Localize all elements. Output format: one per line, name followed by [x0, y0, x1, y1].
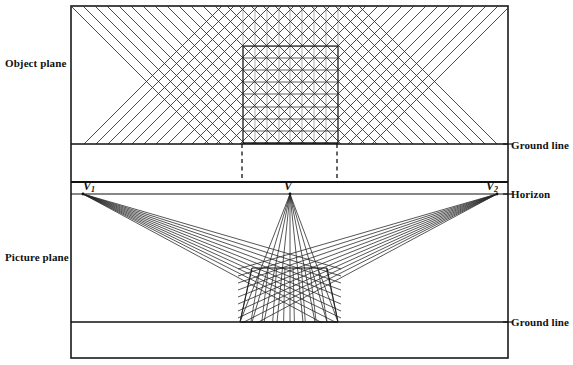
vanishing-point-left-subscript: 1	[91, 185, 95, 194]
vanishing-point-right-letter: V	[486, 179, 494, 193]
vanishing-point-center-letter: V	[284, 179, 292, 193]
label-vanishing-point-right: V2	[486, 179, 498, 194]
label-ground-line-top: Ground line	[511, 139, 569, 151]
vanishing-point-right-subscript: 2	[494, 185, 498, 194]
vanishing-point-left-letter: V	[83, 179, 91, 193]
label-vanishing-point-center: V	[284, 179, 292, 194]
label-picture-plane: Picture plane	[5, 251, 69, 263]
label-horizon: Horizon	[511, 188, 550, 200]
label-object-plane: Object plane	[5, 57, 66, 69]
label-vanishing-point-left: V1	[83, 179, 95, 194]
label-ground-line-bottom: Ground line	[511, 316, 569, 328]
